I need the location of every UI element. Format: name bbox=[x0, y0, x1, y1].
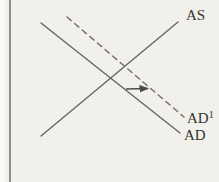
ad-curve-label: AD bbox=[184, 127, 206, 143]
ad1-curve-label: AD1 bbox=[187, 109, 214, 126]
ad-curve bbox=[41, 23, 180, 133]
diagram-canvas: AS AD1 AD bbox=[0, 0, 219, 182]
as-curve-label: AS bbox=[186, 7, 205, 23]
ad1-label-base: AD bbox=[187, 110, 209, 126]
shift-right-arrow bbox=[126, 89, 148, 90]
as-ad-diagram: AS AD1 AD bbox=[0, 0, 219, 182]
ad1-label-superscript: 1 bbox=[209, 109, 214, 120]
